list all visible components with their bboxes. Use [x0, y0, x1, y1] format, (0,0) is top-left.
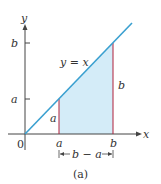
x-tick-a-label: a [56, 137, 63, 150]
arrow-left-icon [60, 152, 64, 156]
side-b-label: b [118, 79, 125, 92]
y-axis-label: y [20, 12, 28, 25]
x-axis-arrow-icon [136, 132, 142, 137]
line-label: y = x [59, 56, 89, 69]
y-tick-b-label: b [11, 37, 18, 50]
side-a-label: a [50, 112, 57, 125]
arrow-right-icon [108, 152, 112, 156]
y-tick-a-label: a [11, 93, 18, 106]
x-axis-label: x [143, 128, 150, 141]
origin-label: 0 [17, 138, 24, 151]
figure-caption: (a) [73, 168, 88, 181]
width-label: b − a [72, 148, 102, 161]
x-tick-b-label: b [110, 137, 117, 150]
trapezoid-diagram: y x b a y = x a b 0 a b b − a (a) [0, 0, 161, 184]
